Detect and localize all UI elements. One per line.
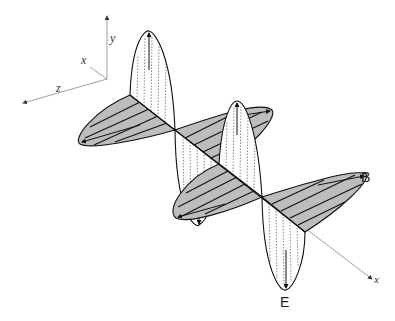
magnetic-field-label: B — [361, 170, 370, 184]
electric-field-label: E — [280, 295, 289, 309]
em-wave-diagram: y x z x B E — [0, 0, 395, 321]
z-axis — [23, 79, 107, 103]
z-axis-label: z — [56, 82, 61, 94]
y-axis-label: y — [110, 32, 115, 44]
wave-graphic — [0, 0, 395, 321]
x-axis-label-propagation: x — [374, 274, 379, 285]
x-axis-label-small: x — [81, 54, 86, 66]
coordinate-axes — [23, 16, 107, 103]
x-axis-small — [90, 67, 107, 79]
